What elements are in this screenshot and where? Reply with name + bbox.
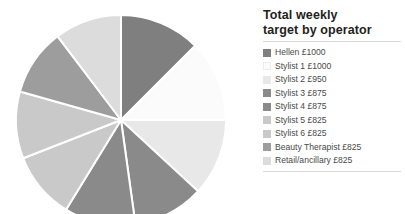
legend-item: Stylist 6 £825 — [263, 127, 403, 140]
legend-swatch-icon — [263, 143, 271, 151]
legend-title: Total weekly target by operator — [263, 8, 403, 38]
legend-label: Retail/ancillary £825 — [275, 154, 352, 167]
legend-label: Stylist 2 £950 — [275, 73, 327, 86]
legend-label: Stylist 3 £875 — [275, 87, 327, 100]
legend-swatch-icon — [263, 76, 271, 84]
legend-list: Hellen £1000Stylist 1 £1000Stylist 2 £95… — [263, 46, 403, 167]
legend-label: Stylist 4 £875 — [275, 100, 327, 113]
legend-title-line2: target by operator — [263, 23, 372, 37]
legend-title-line1: Total weekly — [263, 8, 338, 22]
legend-swatch-icon — [263, 49, 271, 57]
legend-item: Beauty Therapist £825 — [263, 141, 403, 154]
legend-divider-bottom — [263, 171, 401, 172]
legend-label: Stylist 6 £825 — [275, 127, 327, 140]
legend-swatch-icon — [263, 116, 271, 124]
legend-swatch-icon — [263, 62, 271, 70]
legend-label: Stylist 5 £825 — [275, 114, 327, 127]
legend-swatch-icon — [263, 89, 271, 97]
legend-label: Hellen £1000 — [275, 46, 326, 59]
legend-panel: Total weekly target by operator Hellen £… — [263, 8, 403, 176]
legend-swatch-icon — [263, 157, 271, 165]
legend-item: Retail/ancillary £825 — [263, 154, 403, 167]
legend-item: Stylist 2 £950 — [263, 73, 403, 86]
pie-chart-svg — [0, 0, 240, 214]
legend-item: Stylist 5 £825 — [263, 114, 403, 127]
legend-label: Beauty Therapist £825 — [275, 141, 361, 154]
legend-item: Hellen £1000 — [263, 46, 403, 59]
legend-label: Stylist 1 £1000 — [275, 60, 331, 73]
pie-chart-area — [0, 0, 240, 214]
pie-chart-figure: Total weekly target by operator Hellen £… — [0, 0, 405, 214]
legend-item: Stylist 1 £1000 — [263, 60, 403, 73]
legend-swatch-icon — [263, 103, 271, 111]
legend-item: Stylist 3 £875 — [263, 87, 403, 100]
legend-swatch-icon — [263, 130, 271, 138]
legend-item: Stylist 4 £875 — [263, 100, 403, 113]
legend-divider-top — [263, 41, 401, 42]
